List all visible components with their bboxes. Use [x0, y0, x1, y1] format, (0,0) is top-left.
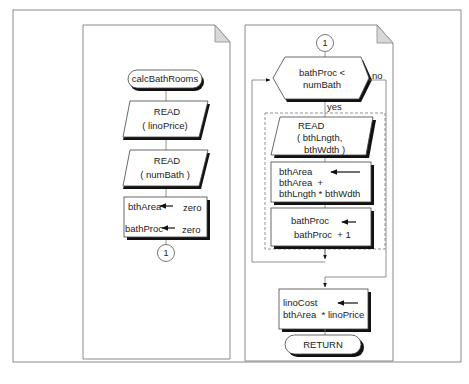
outer-frame	[13, 10, 461, 362]
flowchart-diagram	[0, 0, 469, 384]
decision-line1: bathProc <	[287, 67, 357, 78]
decision-no-label: no	[372, 70, 383, 81]
init-bth-area-val: zero	[183, 202, 201, 213]
cost-calc-target: linoCost	[283, 297, 317, 308]
read-lino-price-title: READ	[127, 106, 207, 117]
area-calc-target: bthArea	[279, 166, 312, 177]
area-calc-expr2: bthLngth * bthWdth	[279, 188, 360, 199]
loop-read-title: READ	[298, 120, 324, 131]
connector-1-left-label: 1	[158, 248, 174, 259]
start-terminal-label: calcBathRooms	[128, 73, 202, 84]
increment-target: bathProc	[291, 215, 329, 226]
return-terminal-label: RETURN	[285, 339, 361, 350]
read-num-bath-title: READ	[127, 155, 207, 166]
connector-1-right-label: 1	[317, 38, 333, 49]
init-bth-area-var: bthArea	[128, 201, 161, 212]
init-bath-proc-val: zero	[182, 224, 200, 235]
area-calc-expr1: bthArea +	[279, 177, 323, 188]
increment-expr: bathProc + 1	[294, 229, 351, 240]
init-bath-proc-var: bathProc	[125, 223, 163, 234]
decision-line2: numBath	[287, 79, 357, 90]
cost-calc-expr: bthArea * linoPrice	[283, 309, 364, 320]
loop-read-arg2: bthWdth )	[304, 144, 345, 155]
read-lino-price-arg: ( linoPrice)	[125, 120, 205, 131]
decision-yes-label: yes	[327, 101, 342, 112]
read-num-bath-arg: ( numBath )	[125, 169, 205, 180]
loop-read-arg1: ( bthLngth,	[297, 132, 342, 143]
